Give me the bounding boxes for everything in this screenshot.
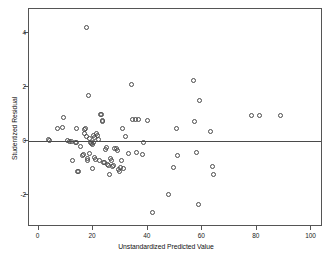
x-tick-mark xyxy=(147,226,148,230)
data-point xyxy=(74,126,79,131)
data-point xyxy=(196,202,201,207)
data-point xyxy=(257,113,262,118)
data-point xyxy=(134,150,139,155)
x-tick-mark xyxy=(256,226,257,230)
x-tick-mark xyxy=(38,226,39,230)
data-point xyxy=(120,126,125,131)
data-point xyxy=(175,153,180,158)
y-tick-label: 0 xyxy=(22,137,26,144)
x-axis-title: Unstandardized Predicted Value xyxy=(0,243,332,250)
x-tick-label: 40 xyxy=(143,232,150,239)
data-point xyxy=(126,151,131,156)
data-point xyxy=(140,152,145,157)
data-point xyxy=(109,158,114,163)
data-point xyxy=(61,115,66,120)
y-tick-label: -2 xyxy=(20,191,26,198)
y-axis-title: Studentized Residual xyxy=(11,97,18,160)
plot-area xyxy=(28,8,322,226)
data-point xyxy=(104,145,109,150)
data-point xyxy=(107,172,112,177)
data-point xyxy=(191,78,196,83)
data-point xyxy=(166,192,171,197)
data-point xyxy=(141,140,146,145)
data-point xyxy=(123,134,128,139)
data-point xyxy=(119,158,124,163)
data-point xyxy=(197,98,202,103)
data-point xyxy=(99,112,104,117)
data-point xyxy=(91,140,96,145)
data-point xyxy=(76,169,81,174)
data-point xyxy=(60,125,65,130)
data-point xyxy=(70,158,75,163)
data-point xyxy=(150,210,155,215)
data-point xyxy=(171,165,176,170)
data-point xyxy=(174,126,179,131)
x-tick-label: 80 xyxy=(252,232,259,239)
x-tick-label: 60 xyxy=(198,232,205,239)
y-tick-label: 2 xyxy=(22,83,26,90)
data-point xyxy=(115,148,120,153)
data-point xyxy=(84,25,89,30)
data-point xyxy=(129,82,134,87)
x-tick-label: 20 xyxy=(89,232,96,239)
data-point xyxy=(85,158,90,163)
x-tick-mark xyxy=(310,226,311,230)
x-tick-mark xyxy=(92,226,93,230)
data-point xyxy=(211,172,216,177)
data-point xyxy=(210,164,215,169)
data-point xyxy=(78,144,83,149)
data-point xyxy=(83,126,88,131)
scatter-plot-figure: Studentized Residual -2024020406080100 U… xyxy=(0,0,332,255)
data-point xyxy=(86,93,91,98)
y-tick-label: 4 xyxy=(22,29,26,36)
data-point xyxy=(208,129,213,134)
data-point xyxy=(121,166,126,171)
data-points-layer xyxy=(29,9,321,225)
data-point xyxy=(145,118,150,123)
data-point xyxy=(136,117,141,122)
x-tick-label: 0 xyxy=(36,232,40,239)
data-point xyxy=(90,166,95,171)
data-point xyxy=(194,150,199,155)
x-tick-mark xyxy=(201,226,202,230)
data-point xyxy=(47,138,52,143)
data-point xyxy=(278,113,283,118)
data-point xyxy=(192,119,197,124)
data-point xyxy=(249,113,254,118)
x-tick-label: 100 xyxy=(305,232,316,239)
data-point xyxy=(96,137,101,142)
